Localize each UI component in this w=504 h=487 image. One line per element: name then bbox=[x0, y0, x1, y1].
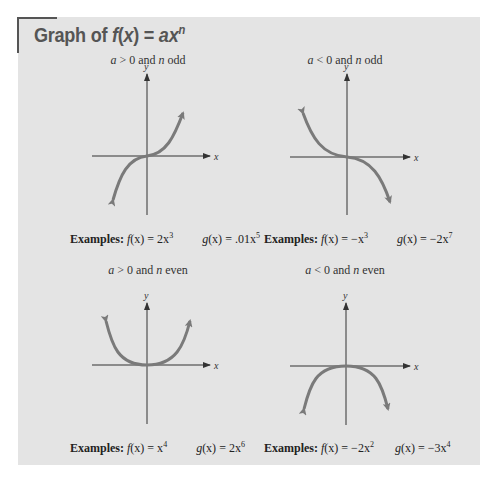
axis-label-x: x bbox=[413, 361, 419, 372]
axis-label-x: x bbox=[213, 360, 219, 371]
graph-a-neg-n-odd bbox=[290, 74, 410, 215]
examples-line: Examples: f(x) = 2x3 g(x) = .01x5 bbox=[70, 231, 260, 247]
axis-label-y: y bbox=[342, 290, 348, 301]
condition-caption: a < 0 and n even bbox=[230, 263, 460, 278]
graph-a-pos-n-even bbox=[92, 303, 210, 424]
examples-line: Examples: f(x) = −x3 g(x) = −2x7 bbox=[264, 231, 452, 247]
axis-label-x: x bbox=[213, 151, 219, 162]
axis-label-y: y bbox=[143, 290, 149, 301]
condition-caption: a > 0 and n odd bbox=[33, 53, 263, 68]
examples-line: Examples: f(x) = x4 g(x) = 2x6 bbox=[70, 440, 245, 456]
condition-caption: a < 0 and n odd bbox=[230, 53, 460, 68]
condition-caption: a > 0 and n even bbox=[33, 263, 263, 278]
graph-a-pos-n-odd bbox=[92, 74, 210, 215]
graph-a-neg-n-even bbox=[290, 303, 410, 425]
curve bbox=[106, 321, 190, 365]
examples-line: Examples: f(x) = −2x2 g(x) = −3x4 bbox=[264, 440, 450, 456]
axis-label-x: x bbox=[413, 152, 419, 163]
